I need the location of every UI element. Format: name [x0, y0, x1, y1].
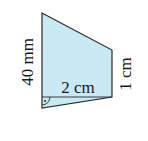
label-left-side: 40 mm — [18, 38, 37, 86]
right-angle-dot-icon — [44, 100, 46, 102]
label-inner-width: 2 cm — [61, 78, 95, 97]
label-right-side: 1 cm — [116, 57, 135, 91]
trapezoid-figure: 40 mm 2 cm 1 cm — [0, 0, 148, 141]
